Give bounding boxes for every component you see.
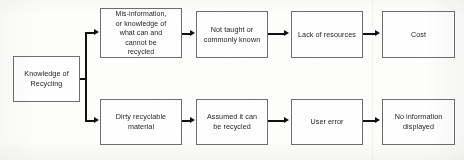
node-label: Lack of resources [298, 30, 356, 40]
arrowhead-assumed-to-user-error [284, 117, 289, 123]
node-label: Not taught or commonly known [204, 25, 261, 45]
node-label: Cost [411, 30, 426, 40]
node-lack-of-resources[interactable]: Lack of resources [291, 11, 363, 58]
scan-seam [372, 0, 373, 160]
node-label: Assumed it can be recycled [207, 112, 257, 132]
edge-assumed-to-user-error [268, 120, 285, 122]
arrowhead-user-error-to-no-information [375, 117, 380, 123]
node-no-information-displayed[interactable]: No information displayed [382, 99, 455, 145]
node-knowledge-of-recycling[interactable]: Knowledge of Recycling [13, 56, 80, 102]
arrowhead-dirty-material-to-assumed [190, 117, 195, 123]
arrowhead-trunk-to-lower [94, 117, 99, 123]
node-assumed-it-can-be-recycled[interactable]: Assumed it can be recycled [196, 99, 268, 145]
node-label: Dirty recyclable material [116, 112, 166, 132]
arrowhead-lack-of-resources-to-cost [375, 30, 380, 36]
node-dirty-recyclable-material[interactable]: Dirty recyclable material [100, 99, 182, 145]
arrowhead-misinformation-to-not-taught [190, 30, 195, 36]
edge-not-taught-to-lack-of-resources [268, 33, 285, 35]
node-mis-information[interactable]: Mis-information, or knowledge of what ca… [100, 8, 182, 58]
node-label: User error [310, 117, 343, 127]
edge-trunk-vertical [85, 33, 87, 121]
arrowhead-trunk-to-upper [94, 29, 99, 35]
node-not-taught-or-commonly-known[interactable]: Not taught or commonly known [196, 11, 268, 58]
node-cost[interactable]: Cost [382, 11, 455, 58]
node-label: Mis-information, or knowledge of what ca… [116, 9, 167, 57]
arrowhead-not-taught-to-lack-of-resources [284, 30, 289, 36]
flowchart-canvas: Knowledge of Recycling Mis-information, … [0, 0, 464, 160]
node-label: No information displayed [395, 112, 443, 132]
node-user-error[interactable]: User error [291, 99, 363, 145]
node-label: Knowledge of Recycling [24, 69, 68, 89]
